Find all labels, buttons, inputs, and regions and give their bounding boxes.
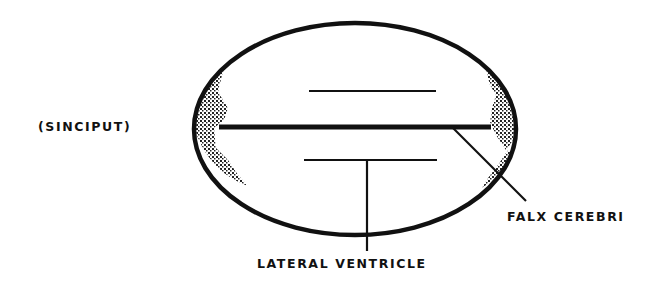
- lateral-ventricle-label: LATERAL VENTRICLE: [257, 258, 427, 271]
- head-diagram: [0, 0, 655, 286]
- sinciput-label: (SINCIPUT): [38, 121, 131, 134]
- falx-cerebri-label: FALX CEREBRI: [507, 211, 625, 224]
